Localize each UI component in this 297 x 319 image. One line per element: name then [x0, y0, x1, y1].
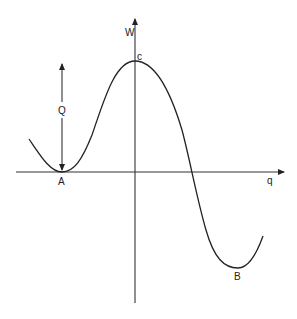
w-axis-label: W	[125, 27, 135, 38]
q-axis-label: q	[267, 175, 273, 186]
point-c-label: c	[137, 51, 142, 62]
point-a-label: A	[58, 176, 65, 187]
diagram-svg: W c Q A q B	[0, 0, 297, 319]
diagram-canvas: W c Q A q B	[0, 0, 297, 319]
point-b-label: B	[234, 271, 241, 282]
potential-curve	[29, 61, 263, 268]
barrier-q-label: Q	[58, 105, 66, 116]
